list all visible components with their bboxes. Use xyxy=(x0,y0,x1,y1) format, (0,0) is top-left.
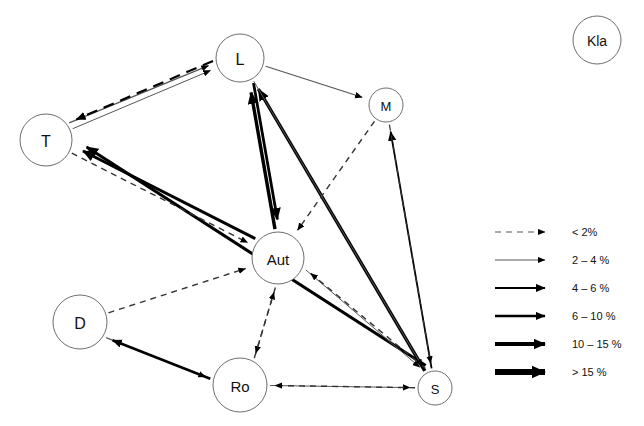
legend-label-1: 2 – 4 % xyxy=(572,254,610,266)
edge-aut-to-s xyxy=(306,270,420,367)
node-label-d: D xyxy=(74,315,86,332)
edge-s-to-aut xyxy=(311,273,426,368)
edge-ro-to-d xyxy=(113,340,211,379)
node-s[interactable]: S xyxy=(418,371,452,405)
legend-label-2: 4 – 6 % xyxy=(572,282,610,294)
edge-aut-to-t xyxy=(83,151,255,239)
node-kla[interactable]: Kla xyxy=(573,16,621,64)
legend-item-2: 4 – 6 % xyxy=(495,282,610,294)
node-t[interactable]: T xyxy=(20,114,72,166)
legend-item-0: < 2% xyxy=(495,226,598,238)
node-d[interactable]: D xyxy=(53,295,107,349)
node-label-s: S xyxy=(431,382,440,397)
node-ro[interactable]: Ro xyxy=(213,358,267,412)
node-label-t: T xyxy=(41,133,51,150)
node-l[interactable]: L xyxy=(216,34,264,82)
legend-item-1: 2 – 4 % xyxy=(495,254,610,266)
edge-d-to-aut xyxy=(109,269,246,313)
node-aut[interactable]: Aut xyxy=(252,232,304,284)
node-label-l: L xyxy=(236,51,245,68)
legend-label-4: 10 – 15 % xyxy=(572,338,622,350)
edge-l-to-m xyxy=(266,66,363,97)
edge-l-to-t xyxy=(76,61,213,120)
nodes-layer: LTMAutDRoSKla xyxy=(20,16,621,412)
legend-item-5: > 15 % xyxy=(495,366,607,378)
legend-label-0: < 2% xyxy=(572,226,598,238)
legend-label-3: 6 – 10 % xyxy=(572,310,616,322)
node-label-ro: Ro xyxy=(230,378,249,395)
edge-t-to-aut xyxy=(72,153,248,243)
legend-label-5: > 15 % xyxy=(572,366,607,378)
node-m[interactable]: M xyxy=(369,88,403,122)
legend-item-4: 10 – 15 % xyxy=(495,338,622,350)
edge-t-low-to-l xyxy=(73,71,211,129)
diagram-canvas: LTMAutDRoSKla < 2%2 – 4 %4 – 6 %6 – 10 %… xyxy=(0,0,644,426)
node-label-m: M xyxy=(381,99,392,114)
edge-ro-to-aut xyxy=(254,292,274,358)
legend-layer: < 2%2 – 4 %4 – 6 %6 – 10 %10 – 15 %> 15 … xyxy=(495,226,622,378)
node-label-aut: Aut xyxy=(267,251,290,268)
edge-l-to-s xyxy=(254,81,423,366)
network-diagram: LTMAutDRoSKla < 2%2 – 4 %4 – 6 %6 – 10 %… xyxy=(0,0,644,426)
legend-item-3: 6 – 10 % xyxy=(495,310,616,322)
node-label-kla: Kla xyxy=(587,33,607,49)
